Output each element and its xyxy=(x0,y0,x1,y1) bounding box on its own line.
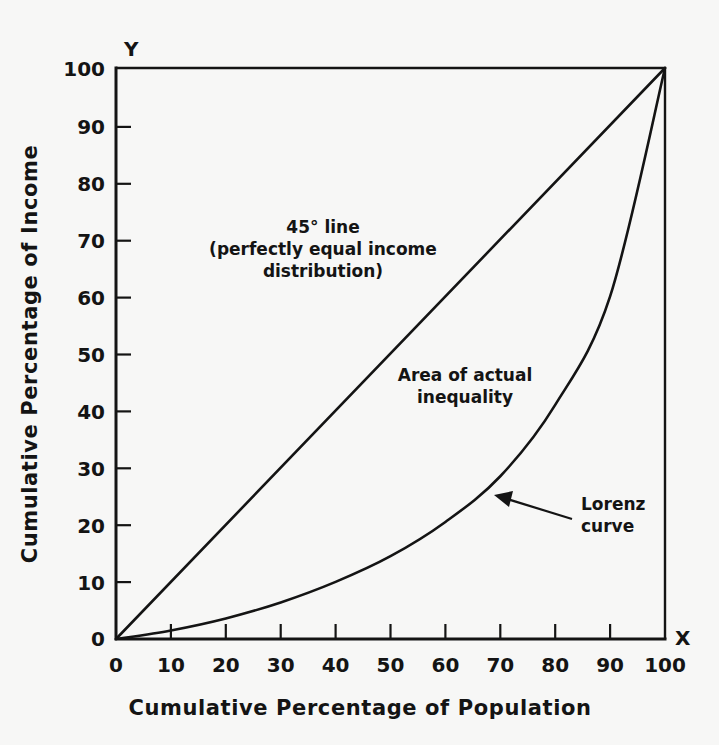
x-tick-labels: 0 10 20 30 40 50 60 70 80 90 100 xyxy=(109,653,686,677)
y-tick-label: 70 xyxy=(77,229,105,253)
y-tick-label: 80 xyxy=(77,172,105,196)
annotation-line: inequality xyxy=(417,387,513,407)
arrow-head-icon xyxy=(494,491,513,507)
x-axis-ticks xyxy=(171,624,610,639)
x-tick-label: 40 xyxy=(322,653,350,677)
annotation-line: (perfectly equal income xyxy=(209,239,437,259)
y-axis-ticks xyxy=(116,127,131,582)
y-axis-title: Cumulative Percentage of Income xyxy=(18,145,42,564)
x-tick-label: 0 xyxy=(109,653,123,677)
y-tick-label: 40 xyxy=(77,400,105,424)
equality-line-series xyxy=(116,68,665,639)
y-tick-label: 90 xyxy=(77,115,105,139)
leader-line xyxy=(504,498,572,519)
x-tick-label: 50 xyxy=(377,653,405,677)
x-tick-label: 70 xyxy=(486,653,514,677)
inequality-area-annotation: Area of actual inequality xyxy=(398,365,533,407)
x-tick-label: 100 xyxy=(644,653,686,677)
y-tick-labels: 100 90 80 70 60 50 40 30 20 10 0 xyxy=(63,57,105,651)
y-axis-letter: Y xyxy=(123,37,139,61)
annotation-line: curve xyxy=(581,516,634,536)
x-tick-label: 60 xyxy=(431,653,459,677)
x-tick-label: 20 xyxy=(212,653,240,677)
x-tick-label: 90 xyxy=(596,653,624,677)
x-tick-label: 30 xyxy=(267,653,295,677)
annotation-line: Lorenz xyxy=(581,494,646,514)
annotation-line: Area of actual xyxy=(398,365,533,385)
y-tick-label: 100 xyxy=(63,57,105,81)
annotation-line: 45° line xyxy=(286,217,359,237)
lorenz-curve-annotation: Lorenz curve xyxy=(494,491,646,536)
equality-line-annotation: 45° line (perfectly equal income distrib… xyxy=(209,217,437,281)
y-tick-label: 10 xyxy=(77,571,105,595)
y-tick-label: 50 xyxy=(77,343,105,367)
chart-canvas: 100 90 80 70 60 50 40 30 20 10 0 0 10 20… xyxy=(0,0,719,745)
y-tick-label: 30 xyxy=(77,457,105,481)
annotation-line: distribution) xyxy=(263,261,383,281)
y-tick-label: 20 xyxy=(77,514,105,538)
y-tick-label: 60 xyxy=(77,286,105,310)
lorenz-curve-figure: 100 90 80 70 60 50 40 30 20 10 0 0 10 20… xyxy=(0,0,719,745)
x-tick-label: 10 xyxy=(157,653,185,677)
x-tick-label: 80 xyxy=(541,653,569,677)
y-tick-label: 0 xyxy=(91,627,105,651)
x-axis-title: Cumulative Percentage of Population xyxy=(128,696,591,720)
x-axis-letter: X xyxy=(675,626,691,650)
